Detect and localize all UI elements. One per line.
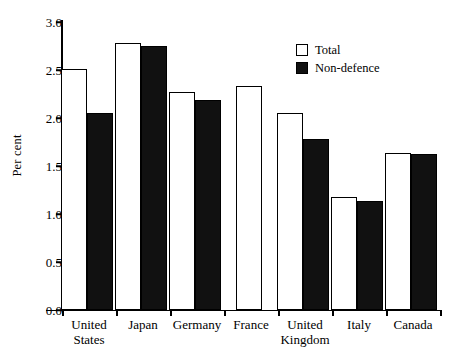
x-axis-tick-mark bbox=[224, 310, 226, 316]
x-axis-label: Canada bbox=[394, 317, 433, 332]
bar-non-defence-united-kingdom bbox=[303, 139, 329, 310]
x-axis-label: United Kingdom bbox=[280, 317, 329, 348]
bar-total-united-kingdom bbox=[277, 113, 303, 310]
bar-total-japan bbox=[115, 43, 141, 310]
bar-total-italy bbox=[331, 197, 357, 310]
x-axis-tick-mark bbox=[62, 310, 64, 316]
bar-group bbox=[62, 22, 116, 310]
y-axis-tick-label: 3.0 bbox=[18, 16, 62, 29]
y-axis-tick-label: 1.0 bbox=[18, 208, 62, 221]
x-axis-label: Germany bbox=[173, 317, 221, 332]
chart-legend: TotalNon-defence bbox=[296, 44, 380, 79]
bar-group bbox=[386, 22, 440, 310]
bar-non-defence-united-states bbox=[87, 113, 113, 310]
bar-non-defence-japan bbox=[141, 46, 167, 310]
x-axis-label: Italy bbox=[347, 317, 371, 332]
x-axis-tick-mark bbox=[170, 310, 172, 316]
legend-item-label: Total bbox=[315, 44, 341, 57]
x-axis-label: Japan bbox=[128, 317, 158, 332]
x-axis-label: France bbox=[233, 317, 268, 332]
y-axis-tick-label: 2.0 bbox=[18, 112, 62, 125]
y-axis-tick-label: 0.5 bbox=[18, 256, 62, 269]
bar-total-germany bbox=[169, 92, 195, 310]
y-axis-tick-label: 0.0 bbox=[18, 304, 62, 317]
x-axis-tick-mark bbox=[386, 310, 388, 316]
y-axis-tick-label: 1.5 bbox=[18, 160, 62, 173]
x-axis-tick-mark bbox=[332, 310, 334, 316]
bar-non-defence-italy bbox=[357, 201, 383, 310]
plot-area bbox=[62, 22, 440, 310]
x-axis-tick-mark bbox=[116, 310, 118, 316]
bar-group bbox=[224, 22, 278, 310]
bar-chart: Per cent 0.00.51.01.52.02.53.0 United St… bbox=[0, 0, 450, 360]
bar-total-united-states bbox=[61, 69, 87, 310]
bar-total-canada bbox=[385, 153, 411, 310]
bar-non-defence-germany bbox=[195, 100, 221, 310]
bar-group bbox=[116, 22, 170, 310]
bar-group bbox=[170, 22, 224, 310]
legend-item-label: Non-defence bbox=[315, 62, 380, 75]
hollow-square-icon bbox=[296, 44, 308, 56]
y-axis-tick-labels: 0.00.51.01.52.02.53.0 bbox=[0, 0, 62, 360]
bar-total-france bbox=[236, 86, 262, 310]
x-axis-tick-mark bbox=[440, 310, 442, 316]
bar-non-defence-canada bbox=[411, 154, 437, 310]
x-axis-tick-mark bbox=[278, 310, 280, 316]
legend-item: Non-defence bbox=[296, 62, 380, 75]
filled-square-icon bbox=[296, 62, 308, 74]
legend-item: Total bbox=[296, 44, 380, 57]
y-axis-tick-label: 2.5 bbox=[18, 64, 62, 77]
x-axis-label: United States bbox=[71, 317, 106, 348]
